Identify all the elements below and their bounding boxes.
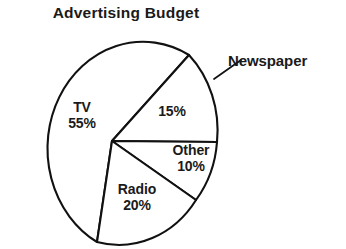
slice-label-radio-percent: 20% xyxy=(106,198,168,214)
slice-label-radio-name: Radio xyxy=(106,182,168,198)
slice-label-other-percent: 10% xyxy=(160,159,222,175)
slice-label-tv-percent: 55% xyxy=(52,116,112,132)
slice-label-tv-name: TV xyxy=(52,100,112,116)
slice-label-tv: TV 55% xyxy=(52,100,112,131)
slice-label-newspaper-percent: 15% xyxy=(144,104,200,120)
slice-label-other: Other 10% xyxy=(160,143,222,174)
slice-label-newspaper-percent-group: 15% xyxy=(144,104,200,120)
slice-label-newspaper-name: Newspaper xyxy=(228,53,344,70)
pie-chart: Advertising Budget TV 55% Newspaper 15% … xyxy=(0,0,346,249)
slice-label-radio: Radio 20% xyxy=(106,182,168,213)
slice-label-other-name: Other xyxy=(160,143,222,159)
slice-label-newspaper: Newspaper xyxy=(228,53,344,70)
